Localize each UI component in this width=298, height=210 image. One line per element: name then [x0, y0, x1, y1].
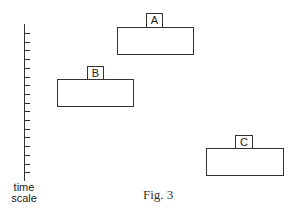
axis-tick [24, 94, 30, 95]
axis-label-line2: scale [4, 193, 44, 204]
figure-caption: Fig. 3 [143, 187, 173, 203]
block-c-rect [206, 148, 284, 176]
block-b-label: B [87, 66, 104, 80]
axis-tick [24, 103, 30, 104]
axis-tick [24, 164, 30, 165]
axis-tick [24, 85, 30, 86]
axis-tick [24, 33, 30, 34]
axis-tick [24, 42, 30, 43]
axis-tick [24, 111, 30, 112]
axis-tick [24, 172, 30, 173]
axis-tick [24, 50, 30, 51]
axis-tick [24, 59, 30, 60]
axis-tick [24, 155, 30, 156]
axis-tick [24, 129, 30, 130]
axis-tick [24, 68, 30, 69]
axis-tick [24, 146, 30, 147]
block-a-rect [117, 27, 194, 55]
block-c-label: C [235, 135, 253, 149]
block-b-rect [57, 79, 134, 107]
axis-tick [24, 120, 30, 121]
axis-label: time scale [4, 182, 44, 204]
axis-tick [24, 77, 30, 78]
block-a-label: A [146, 13, 163, 28]
axis-tick [24, 137, 30, 138]
